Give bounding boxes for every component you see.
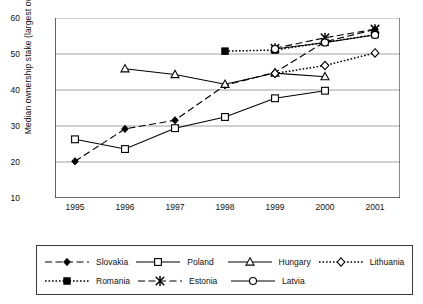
marker-open-circle bbox=[322, 39, 329, 46]
data-point bbox=[172, 125, 179, 132]
legend-swatch-lithuania bbox=[317, 255, 365, 269]
legend-item-estonia[interactable]: Estonia bbox=[136, 274, 229, 288]
y-tick-label: 50 bbox=[0, 49, 20, 59]
data-point bbox=[372, 31, 379, 38]
legend-item-poland[interactable]: Poland bbox=[134, 255, 225, 269]
legend-marker bbox=[64, 258, 71, 265]
series-hungary bbox=[121, 65, 329, 88]
marker-open-square bbox=[172, 125, 179, 132]
data-point bbox=[122, 146, 129, 153]
legend-swatch-latvia bbox=[229, 274, 277, 288]
marker-open-circle bbox=[272, 45, 279, 52]
series-line bbox=[75, 91, 325, 149]
legend-marker bbox=[337, 257, 345, 265]
legend-label: Estonia bbox=[189, 276, 217, 286]
x-tick-label: 2001 bbox=[355, 202, 395, 212]
marker-open-square bbox=[122, 146, 129, 153]
legend-label: Latvia bbox=[282, 276, 305, 286]
data-point bbox=[72, 136, 79, 143]
legend-label: Poland bbox=[187, 257, 213, 267]
legend-label: Slovakia bbox=[96, 257, 128, 267]
legend-marker bbox=[64, 277, 70, 283]
chart-figure: Median ownership stake (largest owner) S… bbox=[0, 0, 423, 304]
marker-filled-diamond bbox=[172, 117, 179, 124]
data-point bbox=[371, 49, 379, 57]
data-point bbox=[272, 95, 279, 102]
legend-marker bbox=[155, 258, 162, 265]
marker-open-triangle bbox=[121, 65, 129, 72]
data-point bbox=[72, 158, 79, 165]
marker-open-square bbox=[72, 136, 79, 143]
marker-open-diamond bbox=[371, 49, 379, 57]
legend-row-1: SlovakiaPolandHungaryLithuania bbox=[43, 252, 408, 271]
y-tick-label: 20 bbox=[0, 157, 20, 167]
marker-filled-square bbox=[222, 48, 228, 54]
marker-open-circle bbox=[250, 277, 257, 284]
marker-open-diamond bbox=[337, 257, 345, 265]
plot-area bbox=[55, 18, 400, 198]
marker-open-diamond bbox=[321, 61, 329, 69]
legend-item-latvia[interactable]: Latvia bbox=[229, 274, 322, 288]
legend-swatch-slovakia bbox=[43, 255, 91, 269]
data-point bbox=[222, 114, 229, 121]
series-slovakia bbox=[72, 26, 379, 165]
legend-swatch-poland bbox=[134, 255, 182, 269]
y-tick-label: 60 bbox=[0, 13, 20, 23]
legend-swatch-hungary bbox=[226, 255, 274, 269]
x-tick-label: 1997 bbox=[155, 202, 195, 212]
chart-legend: SlovakiaPolandHungaryLithuania RomaniaEs… bbox=[36, 245, 413, 295]
legend-label: Romania bbox=[96, 276, 130, 286]
data-point bbox=[321, 61, 329, 69]
x-tick-label: 1996 bbox=[105, 202, 145, 212]
chart-svg bbox=[55, 18, 400, 198]
series-poland bbox=[72, 87, 329, 152]
legend-item-slovakia[interactable]: Slovakia bbox=[43, 255, 134, 269]
legend-item-hungary[interactable]: Hungary bbox=[226, 255, 317, 269]
data-point bbox=[322, 39, 329, 46]
y-axis-title: Median ownership stake (largest owner) bbox=[23, 0, 33, 137]
marker-open-circle bbox=[372, 31, 379, 38]
y-tick-label: 10 bbox=[0, 193, 20, 203]
x-tick-label: 1995 bbox=[55, 202, 95, 212]
marker-open-square bbox=[272, 95, 279, 102]
x-tick-label: 2000 bbox=[305, 202, 345, 212]
legend-row-2: RomaniaEstoniaLatvia bbox=[43, 271, 408, 290]
legend-swatch-romania bbox=[43, 274, 91, 288]
legend-item-lithuania[interactable]: Lithuania bbox=[317, 255, 408, 269]
legend-marker bbox=[250, 277, 257, 284]
marker-open-square bbox=[155, 258, 162, 265]
y-tick-label: 40 bbox=[0, 85, 20, 95]
y-tick-label: 30 bbox=[0, 121, 20, 131]
data-point bbox=[322, 87, 329, 94]
x-tick-label: 1998 bbox=[205, 202, 245, 212]
legend-label: Lithuania bbox=[370, 257, 405, 267]
x-tick-label: 1999 bbox=[255, 202, 295, 212]
data-point bbox=[121, 65, 129, 72]
marker-open-square bbox=[322, 87, 329, 94]
legend-swatch-estonia bbox=[136, 274, 184, 288]
legend-label: Hungary bbox=[279, 257, 311, 267]
marker-filled-diamond bbox=[64, 258, 71, 265]
legend-item-romania[interactable]: Romania bbox=[43, 274, 136, 288]
data-point bbox=[272, 45, 279, 52]
marker-open-square bbox=[222, 114, 229, 121]
marker-filled-square bbox=[64, 277, 70, 283]
data-point bbox=[172, 117, 179, 124]
marker-filled-diamond bbox=[72, 158, 79, 165]
data-point bbox=[222, 48, 228, 54]
